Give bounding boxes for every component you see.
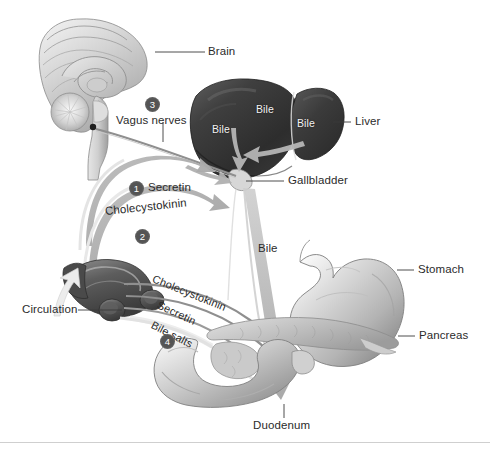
anatomy-illustration bbox=[0, 0, 490, 449]
label-bile-liver-2: Bile bbox=[256, 103, 274, 115]
step-badge-2: 2 bbox=[135, 229, 150, 244]
vagus-origin-dot bbox=[90, 124, 96, 130]
label-gallbladder: Gallbladder bbox=[288, 174, 348, 186]
step-badge-1: 1 bbox=[129, 181, 144, 196]
diagram-canvas: Brain Vagus nerves Liver Gallbladder Sto… bbox=[0, 0, 490, 449]
label-liver: Liver bbox=[355, 115, 380, 127]
label-circulation: Circulation bbox=[22, 303, 77, 315]
step-badge-3: 3 bbox=[145, 97, 160, 112]
label-bile-duct-arrow: Bile bbox=[258, 242, 278, 254]
bottom-rule bbox=[0, 442, 490, 443]
label-bile-liver-1: Bile bbox=[212, 123, 230, 135]
label-duodenum: Duodenum bbox=[253, 419, 310, 431]
label-brain: Brain bbox=[208, 45, 235, 57]
step-badge-4: 4 bbox=[160, 334, 175, 349]
label-vagus-nerves: Vagus nerves bbox=[116, 114, 187, 126]
label-bile-liver-3: Bile bbox=[297, 117, 315, 129]
label-secretin: Secretin bbox=[148, 181, 191, 193]
label-pancreas: Pancreas bbox=[419, 329, 468, 341]
brain-illustration bbox=[39, 19, 147, 180]
label-stomach: Stomach bbox=[418, 263, 464, 275]
